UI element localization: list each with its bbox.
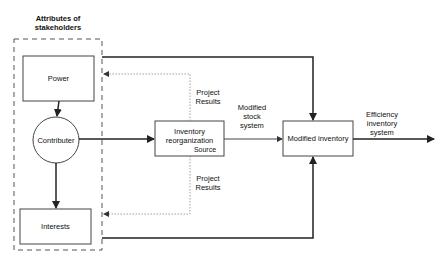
edge-power-to-contributer <box>57 101 59 116</box>
modified-stock-system-label: Modified stock system <box>230 103 274 130</box>
project-results-bottom-label: Project Results <box>190 174 226 192</box>
edge-interests-to-modified-inventory <box>102 157 313 238</box>
efficiency-inventory-system-label: Efficiency inventory system <box>360 110 404 137</box>
power-label: Power <box>23 74 94 83</box>
inventory-reorganization-sublabel: Source <box>190 145 220 154</box>
modified-inventory-label: Modified inventory <box>283 134 353 143</box>
stakeholder-group-title: Attributes of stakeholders <box>18 14 98 32</box>
edge-project-results-top <box>104 74 190 121</box>
contributer-label: Contributer <box>33 136 79 145</box>
inventory-reorganization-label: Inventory reorganization <box>155 127 224 145</box>
project-results-top-label: Project Results <box>190 88 226 106</box>
interests-label: Interests <box>20 222 91 231</box>
edge-project-results-bottom <box>104 156 190 214</box>
